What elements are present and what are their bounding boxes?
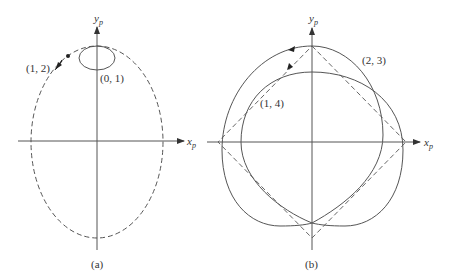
label-1-2: (1, 2) bbox=[26, 62, 50, 75]
panel-b: (2, 3) (1, 4) yp xp (b) bbox=[207, 12, 433, 271]
x-axis-label: xp bbox=[186, 135, 196, 150]
curve-2-3 bbox=[222, 46, 383, 226]
panel-a: (1, 2) (0, 1) yp xp (a) bbox=[18, 12, 196, 271]
y-axis-label: yp bbox=[93, 12, 103, 27]
curve-1-4 bbox=[241, 72, 403, 226]
caption-a: (a) bbox=[91, 258, 104, 271]
label-0-1: (0, 1) bbox=[100, 72, 124, 85]
start-dot bbox=[66, 54, 70, 58]
label-1-4: (1, 4) bbox=[260, 97, 284, 110]
y-axis-label: yp bbox=[308, 12, 318, 27]
caption-b: (b) bbox=[305, 258, 318, 271]
label-2-3: (2, 3) bbox=[362, 54, 386, 67]
figure: (1, 2) (0, 1) yp xp (a) (2, 3) (1, 4) yp… bbox=[0, 0, 451, 279]
x-axis-label: xp bbox=[423, 136, 433, 151]
